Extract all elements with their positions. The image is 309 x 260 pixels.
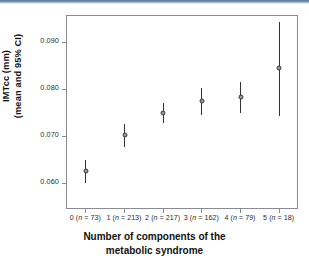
x-axis-tick-mark <box>85 209 86 213</box>
x-axis-tick-mark <box>201 209 202 213</box>
data-point <box>238 95 243 100</box>
data-point <box>161 111 166 116</box>
x-axis-tick-mark <box>124 209 125 213</box>
data-point <box>83 169 88 174</box>
x-axis-tick-label: 5 (n = 18) <box>263 214 294 222</box>
data-point <box>122 132 127 137</box>
x-axis-tick-mark <box>279 209 280 213</box>
figure-panel: IMTcc (mm) (mean and 95% CI) 0.0600.0700… <box>0 4 309 260</box>
x-axis-tick-label: 3 (n = 162) <box>184 214 219 222</box>
data-point <box>277 66 282 71</box>
x-axis-tick-mark <box>163 209 164 213</box>
x-axis-tick-mark <box>240 209 241 213</box>
data-point <box>199 99 204 104</box>
x-axis-tick-label: 4 (n = 79) <box>224 214 255 222</box>
x-axis-title: Number of components of the metabolic sy… <box>0 230 309 258</box>
x-axis-title-line2: metabolic syndrome <box>0 244 309 258</box>
x-axis-tick-label: 0 (n = 73) <box>70 214 101 222</box>
x-axis-tick-label: 1 (n = 213) <box>106 214 141 222</box>
x-axis-title-line1: Number of components of the <box>0 230 309 244</box>
x-axis-tick-label: 2 (n = 217) <box>145 214 180 222</box>
data-series-imtcc <box>0 4 309 219</box>
